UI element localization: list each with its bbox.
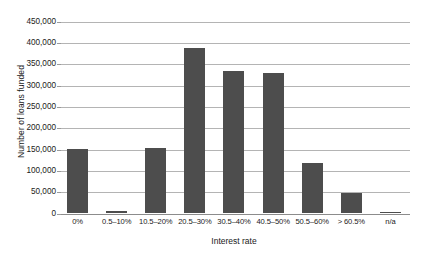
x-axis-tick-label: 0.5–10% [97,217,136,226]
x-axis-tick-label: 30.5–40% [214,217,253,226]
bar-slot [254,22,293,214]
y-axis-tick-mark [57,192,61,193]
y-axis-tick-label: 150,000 [14,146,56,154]
bar-chart: Number of loans funded 450,000400,000350… [0,0,430,261]
y-axis-tick-mark [57,43,61,44]
bar-series [58,22,410,214]
x-axis-tick-labels: 0%0.5–10%10.5–20%20.5–30%30.5–40%40.5–50… [58,217,410,226]
y-axis-tick-label: 350,000 [14,60,56,68]
bar [263,73,284,213]
y-axis-tick-label: 100,000 [14,167,56,175]
y-axis-tick-mark [57,128,61,129]
bar [380,212,401,213]
y-axis-tick-label: 50,000 [14,188,56,196]
y-axis-tick-label: 400,000 [14,39,56,47]
x-axis-tick-label: 0% [58,217,97,226]
bar [223,71,244,213]
y-axis-tick-label: 200,000 [14,124,56,132]
y-axis-tick-mark [57,22,61,23]
axis-baseline [58,214,410,215]
x-axis-tick-label: 40.5–50% [254,217,293,226]
x-axis-tick-label: > 60.5% [332,217,371,226]
y-axis-tick-label: 450,000 [14,18,56,26]
bar [106,211,127,213]
bar-slot [136,22,175,214]
bar [67,149,88,213]
bar [341,193,362,213]
y-axis-tick-label: 0 [14,210,56,218]
bar [184,48,205,213]
y-axis-tick-label: 250,000 [14,103,56,111]
y-axis-tick-labels: 450,000400,000350,000300,000250,000200,0… [14,0,56,261]
y-axis-tick-label: 300,000 [14,82,56,90]
y-axis-tick-mark [57,214,61,215]
bar-slot [293,22,332,214]
y-axis-tick-mark [57,107,61,108]
y-axis-tick-mark [57,171,61,172]
y-axis-tick-mark [57,86,61,87]
bar-slot [332,22,371,214]
y-axis-tick-mark [57,150,61,151]
y-axis-tick-mark [57,64,61,65]
bar-slot [175,22,214,214]
x-axis-tick-label: 10.5–20% [136,217,175,226]
x-axis-title: Interest rate [58,236,410,246]
bar-slot [58,22,97,214]
x-axis-tick-label: 20.5–30% [175,217,214,226]
bar-slot [97,22,136,214]
bar-slot [214,22,253,214]
x-axis-tick-label: 50.5–60% [293,217,332,226]
bar [302,163,323,213]
x-axis-tick-label: n/a [371,217,410,226]
bar [145,148,166,213]
plot-area [58,22,410,214]
bar-slot [371,22,410,214]
